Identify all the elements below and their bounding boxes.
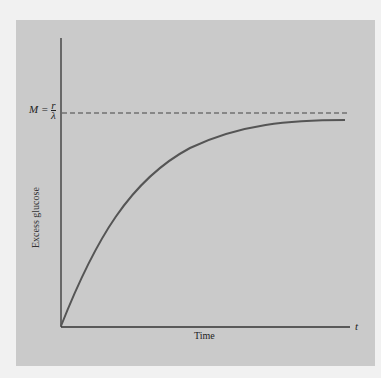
x-axis-label: Time [194,330,215,341]
y-axis-label: Excess glucose [30,187,41,248]
asymptote-lhs: M = [29,103,48,115]
asymptote-denominator: λ [51,111,56,120]
asymptote-label: M = r λ [29,101,56,120]
x-axis-end-label: t [355,320,358,332]
chart-plot [0,0,381,378]
glucose-curve [61,120,345,326]
